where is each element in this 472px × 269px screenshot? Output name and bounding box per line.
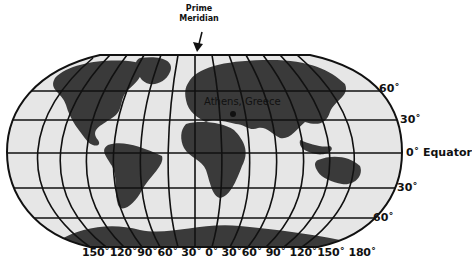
longitude-labels: 150˚120˚90˚60˚ 30˚ 0˚ 30˚60˚ 90˚ 120˚150…	[82, 246, 376, 259]
lat-60n-label: 60˚	[379, 82, 400, 95]
equator-label: 0˚ Equator	[406, 146, 472, 159]
arrow-icon	[193, 32, 203, 52]
lat-30s-label: 30˚	[397, 181, 418, 194]
prime-meridian-label: Prime Meridian	[178, 4, 220, 24]
lat-30n-label: 30˚	[400, 113, 421, 126]
lat-60s-label: 60˚	[373, 211, 394, 224]
athens-label: Athens, Greece	[204, 96, 281, 107]
athens-marker	[230, 111, 236, 117]
